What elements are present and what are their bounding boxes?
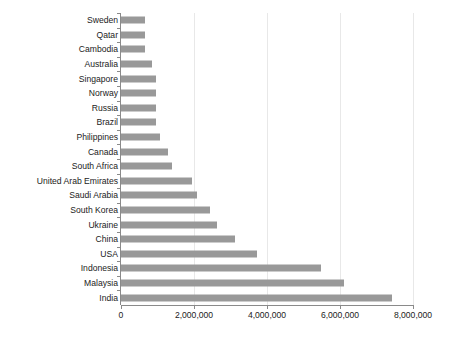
bar-row: Qatar	[0, 28, 449, 43]
category-label: Qatar	[97, 31, 119, 40]
bar-row: Australia	[0, 57, 449, 72]
bar	[121, 46, 145, 53]
y-axis-tick	[117, 247, 121, 248]
bar	[121, 134, 160, 141]
bar	[121, 104, 156, 111]
bar-row: USA	[0, 247, 449, 262]
y-axis-tick	[117, 71, 121, 72]
y-axis-tick	[117, 261, 121, 262]
category-label: India	[99, 293, 118, 302]
bar-row: Saudi Arabia	[0, 188, 449, 203]
bar	[121, 236, 235, 243]
y-axis-tick	[117, 232, 121, 233]
category-label: Canada	[88, 147, 118, 156]
y-axis-tick	[117, 174, 121, 175]
x-axis-tick-label: 6,000,000	[321, 311, 359, 320]
bar-chart: SwedenQatarCambodiaAustraliaSingaporeNor…	[0, 0, 449, 345]
x-axis-tick-label: 0	[119, 311, 124, 320]
bar	[121, 17, 145, 24]
bar	[121, 61, 152, 68]
category-label: China	[96, 235, 118, 244]
bar-row: United Arab Emirates	[0, 174, 449, 189]
bar-row: Sweden	[0, 13, 449, 28]
x-axis-tick	[340, 305, 341, 309]
x-axis-tick-label: 8,000,000	[394, 311, 432, 320]
bar-row: Norway	[0, 86, 449, 101]
category-label: Singapore	[79, 74, 118, 83]
bar	[121, 250, 257, 257]
bar-row: Brazil	[0, 115, 449, 130]
bar	[121, 177, 192, 184]
category-label: Australia	[85, 60, 118, 69]
y-axis-tick	[117, 115, 121, 116]
bar	[121, 192, 197, 199]
x-axis-tick	[413, 305, 414, 309]
category-label: Russia	[92, 104, 118, 113]
x-axis-tick	[194, 305, 195, 309]
y-axis-tick	[117, 28, 121, 29]
bar-row: South Korea	[0, 203, 449, 218]
bar	[121, 221, 217, 228]
category-label: Indonesia	[81, 264, 118, 273]
bar	[121, 294, 392, 301]
category-label: Saudi Arabia	[69, 191, 118, 200]
bar-row: Ukraine	[0, 217, 449, 232]
category-label: South Korea	[70, 206, 118, 215]
bar-row: Singapore	[0, 71, 449, 86]
y-axis-tick	[117, 13, 121, 14]
category-label: Cambodia	[79, 45, 118, 54]
x-axis-tick	[267, 305, 268, 309]
x-axis-tick-label: 4,000,000	[248, 311, 286, 320]
category-label: United Arab Emirates	[37, 177, 118, 186]
bar-row: Indonesia	[0, 261, 449, 276]
category-label: Norway	[89, 89, 118, 98]
bar	[121, 279, 344, 286]
y-axis-tick	[117, 188, 121, 189]
bar-rows: SwedenQatarCambodiaAustraliaSingaporeNor…	[0, 13, 449, 305]
bar-row: Philippines	[0, 130, 449, 145]
bar	[121, 31, 145, 38]
x-axis-tick-label: 2,000,000	[175, 311, 213, 320]
y-axis-tick	[117, 159, 121, 160]
bar-row: India	[0, 290, 449, 305]
y-axis-tick	[117, 217, 121, 218]
category-label: Brazil	[97, 118, 119, 127]
bar	[121, 148, 168, 155]
y-axis-tick	[117, 290, 121, 291]
bar	[121, 75, 156, 82]
bar-row: Russia	[0, 101, 449, 116]
bar	[121, 163, 172, 170]
bar	[121, 90, 156, 97]
bar	[121, 265, 321, 272]
bar-row: Cambodia	[0, 42, 449, 57]
y-axis-tick	[117, 276, 121, 277]
x-axis-tick	[121, 305, 122, 309]
category-label: Philippines	[76, 133, 118, 142]
bar	[121, 207, 210, 214]
y-axis-tick	[117, 42, 121, 43]
category-label: South Africa	[72, 162, 118, 171]
category-label: Malaysia	[84, 279, 118, 288]
category-label: Sweden	[87, 16, 118, 25]
bar-row: China	[0, 232, 449, 247]
y-axis-tick	[117, 144, 121, 145]
y-axis-tick	[117, 130, 121, 131]
y-axis-tick	[117, 101, 121, 102]
bar-row: Canada	[0, 144, 449, 159]
y-axis-tick	[117, 203, 121, 204]
x-axis-ticks: 02,000,0004,000,0006,000,0008,000,000	[0, 305, 449, 335]
category-label: USA	[100, 250, 118, 259]
bar-row: Malaysia	[0, 276, 449, 291]
bar	[121, 119, 156, 126]
y-axis-tick	[117, 86, 121, 87]
y-axis-tick	[117, 57, 121, 58]
category-label: Ukraine	[88, 220, 118, 229]
bar-row: South Africa	[0, 159, 449, 174]
